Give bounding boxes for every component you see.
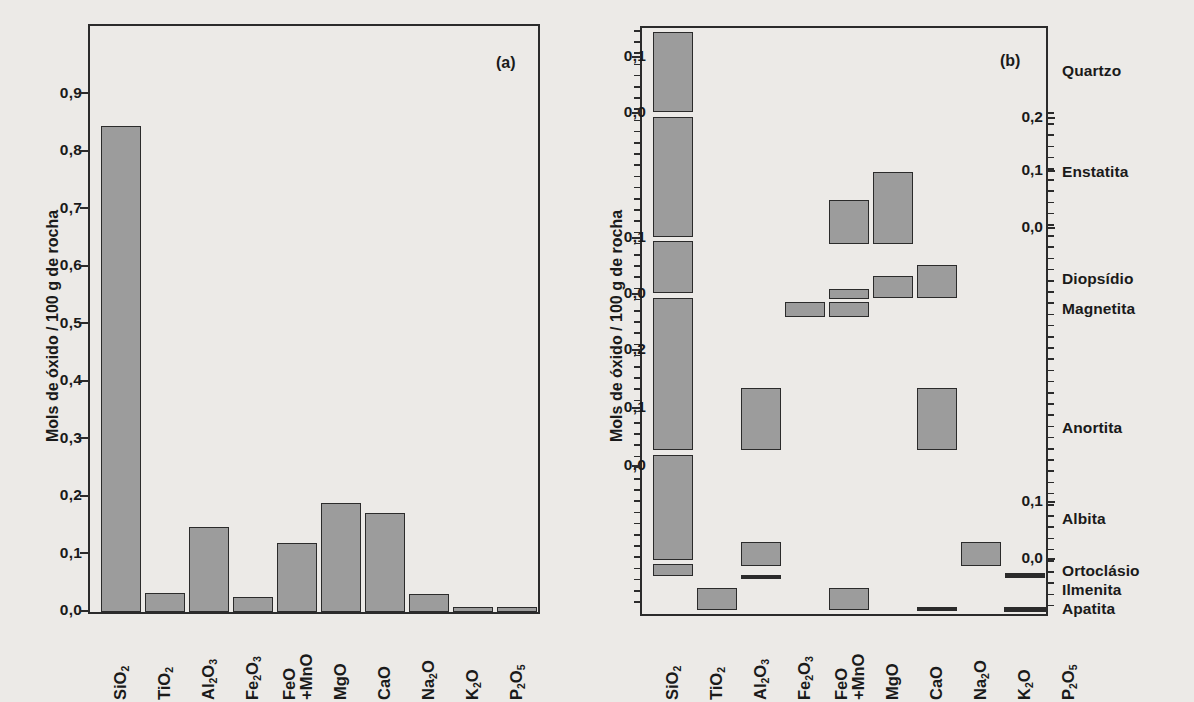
panel-a-ytick-7: 0,7 — [30, 199, 82, 217]
minor-tick — [634, 187, 640, 189]
panel-a-tick-9 — [80, 92, 89, 94]
minor-tick — [1048, 538, 1054, 540]
panel-a-tick-3 — [80, 437, 89, 439]
minor-tick — [634, 75, 640, 77]
minor-tick — [1048, 403, 1054, 405]
minor-tick — [634, 41, 640, 43]
minor-tick — [1048, 269, 1054, 271]
bar-b-cao-apatita — [917, 607, 957, 611]
panel-b-left-major-5 — [632, 407, 641, 409]
panel-a-xlabel-k2o: K2O — [464, 669, 481, 700]
minor-tick — [634, 433, 640, 435]
minor-tick — [1048, 258, 1054, 260]
minor-tick — [1048, 190, 1054, 192]
minor-tick — [634, 52, 640, 54]
minor-tick — [1048, 482, 1054, 484]
panel-a-xlabel-al2o3: Al2O3 — [200, 659, 217, 700]
panel-a-xlabel-sio2: SiO2 — [112, 666, 129, 700]
panel-b-xlabel-mgo: MgO — [884, 663, 901, 700]
panel-a-xlabel-fe2o3: Fe2O3 — [244, 656, 261, 700]
minor-tick — [1048, 157, 1054, 159]
minor-tick — [634, 467, 640, 469]
minor-tick — [634, 500, 640, 502]
bar-b-na2o-albita — [961, 542, 1001, 566]
panel-a-frame — [88, 24, 540, 614]
bar-b-sio2-ortoclasio — [653, 564, 693, 576]
bar-a-fe2o3 — [233, 597, 273, 612]
minor-tick — [634, 30, 640, 32]
minor-tick — [634, 86, 640, 88]
minor-tick — [634, 220, 640, 222]
panel-a-xlabel-cao: CaO — [376, 666, 393, 700]
panel-a-xlabel-na2o: Na2O — [420, 660, 437, 700]
panel-b-xlabel-fe2o3: Fe2O3 — [796, 656, 813, 700]
minor-tick — [1048, 392, 1054, 394]
panel-a-ytick-5: 0,5 — [30, 314, 82, 332]
panel-b-left-major-4 — [632, 349, 641, 351]
minor-tick — [1048, 213, 1054, 215]
minor-tick — [634, 209, 640, 211]
minor-tick — [634, 97, 640, 99]
minor-tick — [634, 164, 640, 166]
minor-tick — [634, 344, 640, 346]
bar-a-na2o — [409, 594, 449, 612]
panel-a-xlabel-tio2: TiO2 — [156, 667, 173, 700]
minor-tick — [1048, 134, 1054, 136]
minor-tick — [1048, 571, 1054, 573]
mineral-label-quartzo: Quartzo — [1062, 62, 1121, 80]
minor-tick — [634, 332, 640, 334]
mineral-label-enstatita: Enstatita — [1062, 163, 1128, 181]
bar-b-cao-diopsidio — [917, 265, 957, 298]
minor-tick — [1048, 325, 1054, 327]
bar-b-k2o-ortoclasio — [1005, 573, 1045, 578]
minor-tick — [1048, 224, 1054, 226]
panel-b-xlabel-sio2: SiO2 — [664, 666, 681, 700]
panel-b-left-major-2 — [632, 237, 641, 239]
bar-b-sio2-albita — [653, 455, 693, 560]
minor-tick — [1048, 549, 1054, 551]
minor-tick — [1048, 168, 1054, 170]
panel-a-tick-5 — [80, 322, 89, 324]
panel-a-ytick-8: 0,8 — [30, 141, 82, 159]
panel-b-left-major-1 — [632, 112, 641, 114]
minor-tick — [1048, 594, 1054, 596]
panel-b-xlabel-p2o5: P2O5 — [1060, 664, 1077, 700]
mineral-label-ilmenita: Ilmenita — [1062, 581, 1121, 599]
minor-tick — [634, 355, 640, 357]
bar-a-feomno — [277, 543, 317, 612]
panel-b-right-ytick-4: 0,0 — [995, 549, 1043, 567]
minor-tick — [634, 601, 640, 603]
minor-tick — [634, 400, 640, 402]
mineral-label-magnetita: Magnetita — [1062, 300, 1135, 318]
minor-tick — [1048, 560, 1054, 562]
bar-a-p2o5 — [497, 607, 537, 612]
bar-b-sio2-anortita — [653, 298, 693, 450]
minor-tick — [634, 153, 640, 155]
panel-b-xlabel-na2o: Na2O — [972, 660, 989, 700]
panel-b-xlabel-al2o3: Al2O3 — [752, 659, 769, 700]
minor-tick — [634, 108, 640, 110]
panel-a-xlabel-p2o5: P2O5 — [508, 664, 525, 700]
bar-b-sio2-diopsidio — [653, 241, 693, 293]
panel-b-right-major-1 — [1046, 170, 1055, 172]
minor-tick — [634, 276, 640, 278]
minor-tick — [634, 377, 640, 379]
panel-b-right-major-0 — [1046, 117, 1055, 119]
panel-a-tick-6 — [80, 265, 89, 267]
panel-a-ytick-4: 0,4 — [30, 371, 82, 389]
panel-b-right-ytick-0: 0,2 — [995, 108, 1043, 126]
mineral-label-diopsidio: Diopsídio — [1062, 270, 1134, 288]
minor-tick — [634, 176, 640, 178]
bar-b-mgo-enstatita — [873, 172, 913, 244]
minor-tick — [1048, 291, 1054, 293]
bar-a-k2o — [453, 607, 493, 612]
minor-tick — [1048, 493, 1054, 495]
panel-a-tick-7 — [80, 207, 89, 209]
mineral-label-apatita: Apatita — [1062, 600, 1115, 618]
minor-tick — [1048, 381, 1054, 383]
panel-a-tick-8 — [80, 150, 89, 152]
minor-tick — [1048, 515, 1054, 517]
minor-tick — [634, 388, 640, 390]
minor-tick — [634, 232, 640, 234]
minor-tick — [634, 590, 640, 592]
